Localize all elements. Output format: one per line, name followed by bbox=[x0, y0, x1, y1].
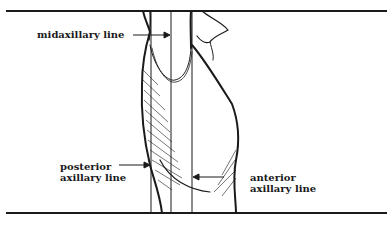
anterior-axillary-label: anterior axillary line bbox=[250, 172, 316, 194]
anterior-label-line2: axillary line bbox=[250, 183, 316, 194]
posterior-label-line1: posterior bbox=[60, 161, 126, 172]
posterior-label-line2: axillary line bbox=[60, 172, 126, 183]
posterior-axillary-label: posterior axillary line bbox=[60, 161, 126, 183]
back-hatching bbox=[143, 70, 182, 190]
chest-hatching bbox=[214, 150, 236, 196]
anterior-label-line1: anterior bbox=[250, 172, 316, 183]
midaxillary-label: midaxillary line bbox=[37, 29, 124, 40]
